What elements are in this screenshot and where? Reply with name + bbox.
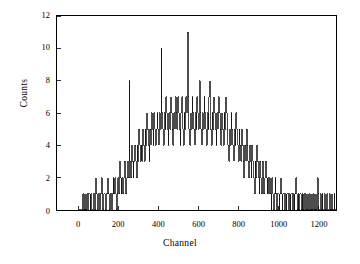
y-tick-label: 12 (22, 11, 50, 20)
y-tick-label: 6 (22, 109, 50, 118)
x-tick-label: 1200 (299, 220, 339, 229)
x-axis-label: Channel (0, 238, 360, 248)
plot-area (56, 15, 337, 211)
y-tick-label: 0 (22, 207, 50, 216)
x-tick-label: 0 (58, 220, 98, 229)
x-tick-label: 800 (219, 220, 259, 229)
x-tick-label: 600 (179, 220, 219, 229)
y-tick-label: 4 (22, 141, 50, 150)
counts-series-path (79, 32, 336, 210)
y-tick-label: 2 (22, 174, 50, 183)
x-tick-label: 400 (138, 220, 178, 229)
y-tick-label: 8 (22, 76, 50, 85)
chart-figure: Counts Channel 024681012 020040060080010… (0, 0, 360, 264)
y-tick-label: 10 (22, 43, 50, 52)
x-tick-label: 1000 (259, 220, 299, 229)
spectrum-plot-svg (57, 16, 336, 210)
x-tick-label: 200 (98, 220, 138, 229)
